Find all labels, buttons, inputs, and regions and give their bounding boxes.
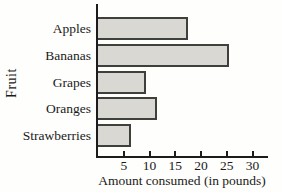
x-tick-label-25: 25 — [214, 159, 240, 173]
x-tick-25 — [226, 151, 228, 156]
x-tick-label-15: 15 — [162, 159, 188, 173]
x-tick-30 — [252, 151, 254, 156]
bar-strawberries — [98, 124, 131, 147]
x-tick-20 — [200, 151, 202, 156]
bar-bananas — [98, 44, 229, 67]
x-tick-10 — [149, 151, 151, 156]
x-tick-label-10: 10 — [137, 159, 163, 173]
bar-oranges — [98, 97, 157, 120]
x-axis-title: Amount consumed (in pounds) — [88, 173, 276, 190]
x-tick-label-5: 5 — [111, 159, 137, 173]
plot-area — [96, 4, 268, 158]
category-label-bananas: Bananas — [0, 47, 91, 64]
fruit-consumption-bar-chart: Fruit ApplesBananasGrapesOrangesStrawber… — [0, 0, 281, 192]
x-tick-15 — [174, 151, 176, 156]
category-label-apples: Apples — [0, 20, 91, 37]
x-tick-label-30: 30 — [240, 159, 266, 173]
x-tick-5 — [123, 151, 125, 156]
category-label-oranges: Oranges — [0, 100, 91, 117]
category-label-strawberries: Strawberries — [0, 127, 91, 144]
category-label-grapes: Grapes — [0, 74, 91, 91]
x-tick-label-20: 20 — [188, 159, 214, 173]
bar-grapes — [98, 71, 146, 94]
bar-apples — [98, 17, 188, 40]
